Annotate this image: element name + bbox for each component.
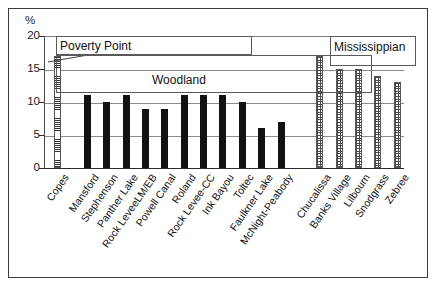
y-tick-label-5: 5 (8, 129, 40, 141)
chart-figure: % 20151050 Poverty Point Woodland Missis… (0, 0, 440, 292)
y-tick-label-15: 15 (8, 63, 40, 75)
y-tick-label-20: 20 (8, 30, 40, 42)
x-axis-labels: CopesMansfordStephensonPanther LakeRock … (44, 168, 404, 288)
woodland-callout-box (56, 55, 372, 93)
y-tick-label-10: 10 (8, 96, 40, 108)
y-axis-unit: % (25, 14, 35, 26)
annotation-woodland: Woodland (152, 74, 206, 86)
x-axis-label-text: Copes (45, 172, 71, 203)
x-axis-label: Copes (45, 172, 71, 203)
annotation-mississippian: Mississippian (334, 41, 405, 53)
y-tick-label-0: 0 (8, 162, 40, 174)
